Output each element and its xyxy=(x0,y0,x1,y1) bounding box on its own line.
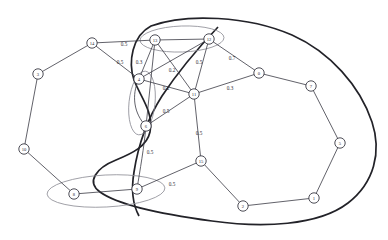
node-label-11: 11 xyxy=(192,92,197,97)
edge-8-9 xyxy=(74,189,137,194)
graph-node-14[interactable]: 14 xyxy=(87,38,97,48)
edge-weight-13-11: 0.2 xyxy=(169,67,176,73)
edge-weight-14-4: 0.5 xyxy=(117,59,124,65)
edge-weight-12-11: 0.5 xyxy=(196,59,203,65)
graph-node-2[interactable]: 2 xyxy=(238,201,248,211)
edge-3-14 xyxy=(38,43,92,74)
edge-weight-13-4: 0.3 xyxy=(136,59,143,65)
graph-node-8[interactable]: 8 xyxy=(69,189,79,199)
cluster-bottom-left-ellipse xyxy=(46,172,166,210)
graph-svg: 0.50.50.30.20.50.70.30.20.50.50.50.5 012… xyxy=(0,0,388,240)
edge-1-5 xyxy=(314,143,340,198)
graph-node-15[interactable]: 15 xyxy=(196,156,206,166)
edge-weight-9-15: 0.5 xyxy=(169,181,176,187)
graph-diagram-canvas: 0.50.50.30.20.50.70.30.20.50.50.50.5 012… xyxy=(0,0,388,240)
edge-7-0 xyxy=(259,73,311,86)
node-label-14: 14 xyxy=(90,41,95,46)
edge-5-7 xyxy=(311,86,340,143)
edge-2-1 xyxy=(243,198,314,206)
edge-11-15 xyxy=(194,94,201,161)
edge-weight-11-0: 0.3 xyxy=(227,85,234,91)
edge-weight-6-9: 0.5 xyxy=(147,149,154,155)
node-label-12: 12 xyxy=(207,37,212,42)
graph-node-0[interactable]: 0 xyxy=(254,68,264,78)
node-label-10: 10 xyxy=(22,147,27,152)
graph-node-10[interactable]: 10 xyxy=(19,144,29,154)
graph-node-1[interactable]: 1 xyxy=(309,193,319,203)
edge-6-9 xyxy=(137,126,146,189)
edge-10-8 xyxy=(24,149,74,194)
node-label-15: 15 xyxy=(199,159,204,164)
graph-node-9[interactable]: 9 xyxy=(132,184,142,194)
edge-weight-11-15: 0.5 xyxy=(196,130,203,136)
graph-node-7[interactable]: 7 xyxy=(306,81,316,91)
edge-weight-14-13: 0.5 xyxy=(121,41,128,47)
edge-weight-12-0: 0.7 xyxy=(229,55,236,61)
cluster-ellipses-group xyxy=(46,25,224,211)
node-label-13: 13 xyxy=(153,38,158,43)
edges-group xyxy=(24,39,340,206)
nodes-group: 0123456789101112131415 xyxy=(19,34,345,211)
edge-weight-6-11: 0.5 xyxy=(163,108,170,114)
graph-node-3[interactable]: 3 xyxy=(33,69,43,79)
edge-weight-4-11: 0.2 xyxy=(163,85,170,91)
edge-13-12 xyxy=(155,39,209,40)
graph-node-13[interactable]: 13 xyxy=(150,35,160,45)
edge-15-2 xyxy=(201,161,243,206)
graph-node-12[interactable]: 12 xyxy=(204,34,214,44)
graph-node-5[interactable]: 5 xyxy=(335,138,345,148)
edge-12-11 xyxy=(194,39,209,94)
edge-3-10 xyxy=(24,74,38,149)
graph-node-11[interactable]: 11 xyxy=(189,89,199,99)
graph-node-6[interactable]: 6 xyxy=(141,121,151,131)
graph-node-4[interactable]: 4 xyxy=(134,74,144,84)
